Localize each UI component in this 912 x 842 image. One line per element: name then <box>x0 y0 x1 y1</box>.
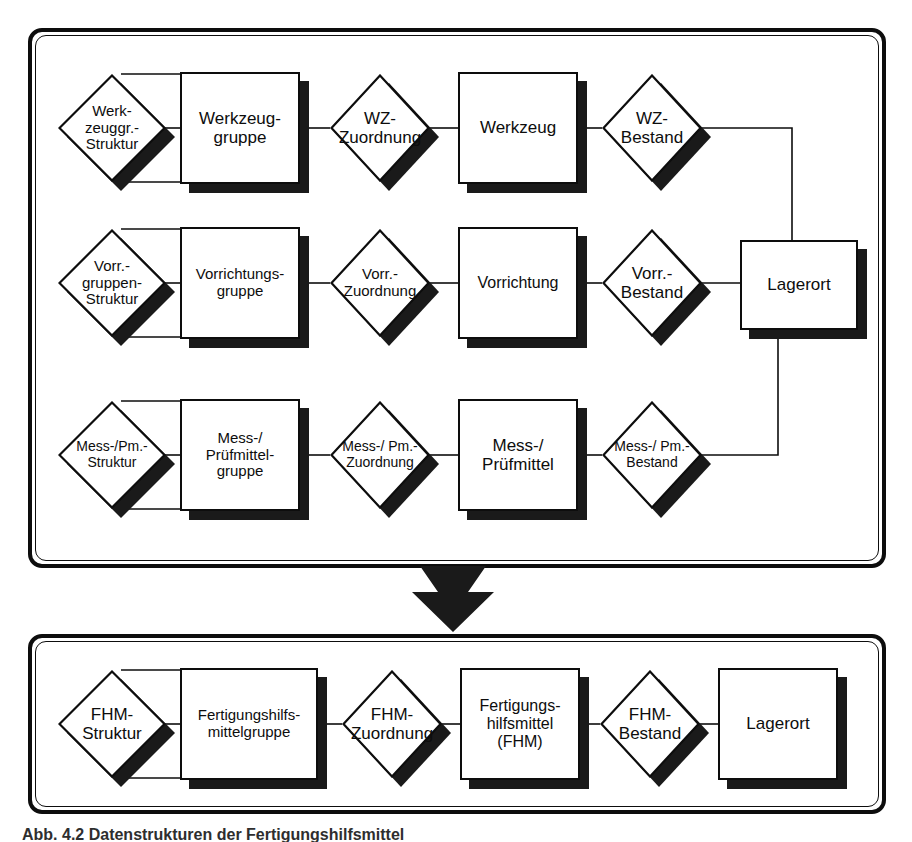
relationship-mess-zuordnung[interactable]: Mess-/ Pm.- Zuordnung <box>330 401 430 509</box>
entity-label: Fertigungs- hilfsmittel (FHM) <box>476 697 565 751</box>
entity-fertigungshilfsmittel[interactable]: Fertigungs- hilfsmittel (FHM) <box>460 668 580 780</box>
entity-label: Werkzeug- gruppe <box>195 109 285 147</box>
relationship-label: WZ- Bestand <box>602 74 702 182</box>
relationship-vorr-zuordnung[interactable]: Vorr.- Zuordnung <box>330 229 430 337</box>
entity-label: Fertigungshilfs- mittelgruppe <box>194 707 305 741</box>
figure-canvas: Werk- zeuggr.- Struktur Werkzeug- gruppe… <box>0 0 912 842</box>
entity-label: Vorrichtungs- gruppe <box>192 266 288 300</box>
entity-fertigungshilfsmittelgruppe[interactable]: Fertigungshilfs- mittelgruppe <box>180 668 318 780</box>
entity-vorrichtung[interactable]: Vorrichtung <box>458 227 578 339</box>
entity-label: Mess-/ Prüfmittel- gruppe <box>202 430 278 480</box>
relationship-label: FHM- Zuordnung <box>342 670 442 778</box>
relationship-mess-struktur[interactable]: Mess-/Pm.- Struktur <box>58 401 166 509</box>
entity-label: Werkzeug <box>476 118 560 137</box>
relationship-label: Vorr.- Zuordnung <box>330 229 430 337</box>
relationship-label: FHM- Struktur <box>58 670 166 778</box>
entity-face: Werkzeug <box>458 72 578 184</box>
entity-face: Vorrichtung <box>458 227 578 339</box>
figure-caption: Abb. 4.2 Datenstrukturen der Fertigungsh… <box>22 826 882 842</box>
relationship-vorr-struktur[interactable]: Vorr.- gruppen- Struktur <box>58 229 166 337</box>
entity-face: Fertigungs- hilfsmittel (FHM) <box>460 668 580 780</box>
entity-label: Lagerort <box>742 714 813 733</box>
relationship-vorr-bestand[interactable]: Vorr.- Bestand <box>602 229 702 337</box>
entity-messpruefmittel[interactable]: Mess-/ Prüfmittel <box>458 399 578 511</box>
entity-face: Fertigungshilfs- mittelgruppe <box>180 668 318 780</box>
relationship-label: Mess-/ Pm.- Bestand <box>602 401 702 509</box>
entity-vorrichtungsgruppe[interactable]: Vorrichtungs- gruppe <box>180 227 300 339</box>
entity-label: Mess-/ Prüfmittel <box>478 436 558 474</box>
entity-label: Lagerort <box>763 275 834 294</box>
entity-face: Mess-/ Prüfmittel <box>458 399 578 511</box>
relationship-fhm-bestand[interactable]: FHM- Bestand <box>600 670 700 778</box>
entity-lagerort-upper[interactable]: Lagerort <box>740 240 858 330</box>
entity-face: Mess-/ Prüfmittel- gruppe <box>180 399 300 511</box>
relationship-label: Mess-/Pm.- Struktur <box>58 401 166 509</box>
entity-label: Vorrichtung <box>474 274 563 292</box>
relationship-wz-bestand[interactable]: WZ- Bestand <box>602 74 702 182</box>
entity-messpruefmittelgruppe[interactable]: Mess-/ Prüfmittel- gruppe <box>180 399 300 511</box>
relationship-fhm-struktur[interactable]: FHM- Struktur <box>58 670 166 778</box>
entity-face: Vorrichtungs- gruppe <box>180 227 300 339</box>
entity-werkzeug[interactable]: Werkzeug <box>458 72 578 184</box>
relationship-wz-struktur[interactable]: Werk- zeuggr.- Struktur <box>58 74 166 182</box>
relationship-label: Werk- zeuggr.- Struktur <box>58 74 166 182</box>
flow-down-arrow <box>398 566 508 636</box>
relationship-fhm-zuordnung[interactable]: FHM- Zuordnung <box>342 670 442 778</box>
relationship-label: Vorr.- gruppen- Struktur <box>58 229 166 337</box>
entity-lagerort-lower[interactable]: Lagerort <box>718 668 838 780</box>
entity-werkzeuggruppe[interactable]: Werkzeug- gruppe <box>180 72 300 184</box>
relationship-label: Vorr.- Bestand <box>602 229 702 337</box>
entity-face: Werkzeug- gruppe <box>180 72 300 184</box>
relationship-label: Mess-/ Pm.- Zuordnung <box>330 401 430 509</box>
relationship-label: WZ- Zuordnung <box>330 74 430 182</box>
relationship-wz-zuordnung[interactable]: WZ- Zuordnung <box>330 74 430 182</box>
relationship-label: FHM- Bestand <box>600 670 700 778</box>
entity-face: Lagerort <box>740 240 858 330</box>
entity-face: Lagerort <box>718 668 838 780</box>
relationship-mess-bestand[interactable]: Mess-/ Pm.- Bestand <box>602 401 702 509</box>
